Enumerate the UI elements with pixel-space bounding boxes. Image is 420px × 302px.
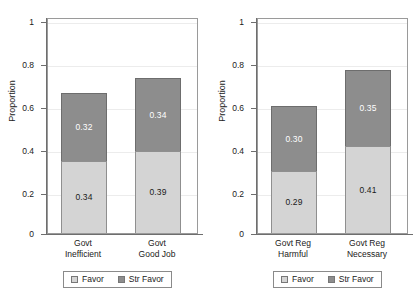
legend-label: Favor — [82, 275, 104, 284]
y-axis-tick — [251, 194, 256, 195]
y-axis-tick — [41, 108, 46, 109]
y-axis-line — [256, 18, 257, 235]
y-axis-tick-label: 0.2 — [22, 190, 34, 199]
category-line-1: Govt — [114, 238, 200, 249]
bar-segment-favor[interactable]: 0.29 — [271, 171, 317, 233]
gridline — [48, 66, 197, 67]
y-axis-tick-label: 0.8 — [22, 61, 34, 70]
bar-segment-str-favor[interactable]: 0.34 — [135, 78, 181, 151]
y-axis-tick-label: 0.4 — [232, 147, 244, 156]
favor-swatch-icon — [281, 276, 288, 283]
bar-segment-str-favor[interactable]: 0.32 — [61, 93, 107, 161]
bar-stack[interactable]: 0.34 0.39 — [135, 78, 181, 233]
x-axis-category-label: Govt Good Job — [114, 238, 200, 260]
y-axis-tick-label: 1 — [239, 18, 244, 27]
legend-label: Str Favor — [339, 275, 374, 284]
bar-value-label: 0.29 — [286, 198, 303, 207]
bar-stack[interactable]: 0.32 0.34 — [61, 93, 107, 233]
bar-segment-favor[interactable]: 0.34 — [61, 161, 107, 233]
y-axis-tick — [251, 151, 256, 152]
bar-segment-str-favor[interactable]: 0.35 — [345, 70, 391, 146]
y-axis-tick — [41, 65, 46, 66]
gridline — [258, 23, 407, 24]
bar-stack[interactable]: 0.35 0.41 — [345, 70, 391, 233]
bar-value-label: 0.30 — [286, 135, 303, 144]
figure: 0.32 0.34 0.34 0.39 1 — [0, 0, 420, 302]
favor-swatch-icon — [71, 276, 78, 283]
legend-item-str-favor[interactable]: Str Favor — [118, 275, 164, 284]
y-axis-tick — [41, 22, 46, 23]
y-axis-tick — [41, 194, 46, 195]
y-axis-tick-label: 0.4 — [22, 147, 34, 156]
gridline — [258, 66, 407, 67]
y-axis-tick — [251, 234, 256, 235]
bar-segment-favor[interactable]: 0.41 — [345, 146, 391, 233]
bar-value-label: 0.34 — [76, 193, 93, 202]
legend-item-favor[interactable]: Favor — [71, 275, 104, 284]
bar-segment-str-favor[interactable]: 0.30 — [271, 106, 317, 171]
bar-segment-favor[interactable]: 0.39 — [135, 151, 181, 233]
plot-area-right: 0.30 0.29 0.35 0.41 — [257, 18, 408, 234]
bar-value-label: 0.41 — [360, 186, 377, 195]
figure-caption — [4, 293, 418, 302]
plot-area-left: 0.32 0.34 0.34 0.39 — [47, 18, 198, 234]
panel-left: 0.32 0.34 0.34 0.39 1 — [0, 0, 210, 292]
category-line-2: Necessary — [324, 249, 410, 260]
legend: Favor Str Favor — [273, 271, 382, 288]
y-axis-tick — [251, 65, 256, 66]
panel-right: 0.30 0.29 0.35 0.41 1 — [210, 0, 420, 292]
x-axis-line — [251, 234, 413, 235]
y-axis-tick-label: 0.8 — [232, 61, 244, 70]
y-axis-tick-label: 0 — [29, 230, 34, 239]
legend-item-favor[interactable]: Favor — [281, 275, 314, 284]
y-axis-line — [46, 18, 47, 235]
x-axis-line — [41, 234, 203, 235]
category-line-1: Govt Reg — [324, 238, 410, 249]
y-axis-tick-label: 0.2 — [232, 190, 244, 199]
y-axis-title: Proportion — [217, 56, 227, 146]
bar-stack[interactable]: 0.30 0.29 — [271, 106, 317, 233]
y-axis-tick — [251, 22, 256, 23]
y-axis-tick-label: 0.6 — [22, 104, 34, 113]
legend: Favor Str Favor — [63, 271, 172, 288]
str-favor-swatch-icon — [328, 276, 335, 283]
gridline — [48, 23, 197, 24]
y-axis-tick — [41, 234, 46, 235]
bar-value-label: 0.39 — [150, 188, 167, 197]
bar-value-label: 0.34 — [150, 111, 167, 120]
legend-label: Favor — [292, 275, 314, 284]
bar-value-label: 0.32 — [76, 123, 93, 132]
category-line-2: Good Job — [114, 249, 200, 260]
legend-label: Str Favor — [129, 275, 164, 284]
legend-item-str-favor[interactable]: Str Favor — [328, 275, 374, 284]
bar-value-label: 0.35 — [360, 104, 377, 113]
y-axis-tick-label: 0.6 — [232, 104, 244, 113]
str-favor-swatch-icon — [118, 276, 125, 283]
y-axis-tick — [41, 151, 46, 152]
y-axis-title: Proportion — [7, 56, 17, 146]
y-axis-tick-label: 0 — [239, 230, 244, 239]
x-axis-category-label: Govt Reg Necessary — [324, 238, 410, 260]
y-axis-tick — [251, 108, 256, 109]
y-axis-tick-label: 1 — [29, 18, 34, 27]
